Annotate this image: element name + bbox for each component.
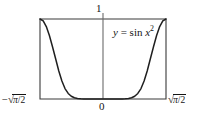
x-max-radical: √π/2: [168, 94, 186, 106]
y-max-label: 1: [96, 3, 102, 14]
x-max-two: 2: [180, 95, 185, 105]
equation-function: sin: [130, 26, 146, 38]
x-max-radicand: π/2: [173, 94, 186, 106]
equation-label: y = sin x2: [113, 25, 154, 38]
figure-graph-sin-x-squared: 1 0 −√π/2 √π/2 y = sin x2: [0, 0, 203, 120]
x-min-radical: √π/2: [8, 94, 26, 106]
x-min-label: −√π/2: [2, 94, 26, 106]
origin-label: 0: [99, 101, 105, 112]
x-max-label: √π/2: [168, 94, 186, 106]
x-min-two: 2: [20, 95, 25, 105]
x-min-radicand: π/2: [12, 94, 25, 106]
equation-equals: =: [118, 26, 130, 38]
equation-exponent: 2: [150, 24, 154, 33]
